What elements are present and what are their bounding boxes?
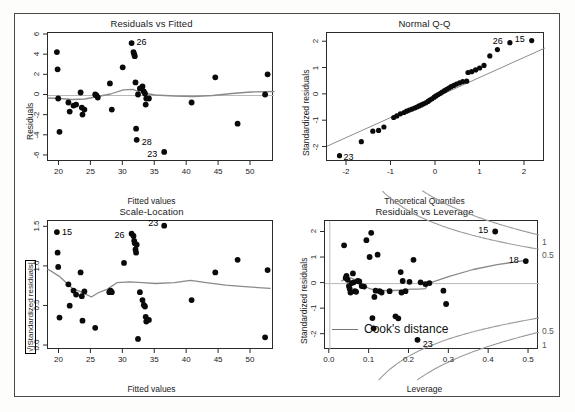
axes-scale-location — [15, 206, 288, 398]
x-tick-label: 40 — [182, 167, 191, 176]
cooks-contour-label: 1 — [542, 340, 547, 350]
y-tick-label: 2 — [309, 229, 318, 233]
x-tick-label: 50 — [246, 167, 255, 176]
panel-scale-location: Scale-Location √|Standardized residuals|… — [15, 206, 288, 398]
outlier-label-15: 15 — [478, 225, 488, 235]
outlier-label-23: 23 — [148, 218, 158, 228]
y-tick-label: 2 — [32, 72, 41, 76]
y-tick-label: -1 — [311, 117, 320, 124]
y-tick-label: 1.0 — [32, 260, 41, 271]
y-tick-label: 1 — [311, 65, 320, 69]
figure-outer-frame: Residuals vs Fitted Residuals Fitted val… — [14, 13, 560, 397]
x-tick-label: 30 — [118, 167, 127, 176]
x-tick-label: 0.4 — [483, 355, 494, 364]
y-tick-label: 4 — [32, 52, 41, 56]
outlier-label-28: 28 — [142, 137, 152, 147]
y-tick-label: -2 — [309, 330, 318, 337]
x-tick-label: 1 — [477, 167, 481, 176]
y-tick-label: 6 — [32, 32, 41, 36]
outlier-label-26: 26 — [137, 37, 147, 47]
y-tick-label: -4 — [32, 131, 41, 138]
y-tick-label: 0 — [311, 92, 320, 96]
y-tick-label: 0 — [32, 92, 41, 96]
outlier-label-26: 26 — [115, 230, 125, 240]
outlier-label-15: 15 — [515, 34, 525, 44]
x-tick-label: 35 — [150, 355, 159, 364]
cooks-contour-label: 0.5 — [542, 250, 554, 260]
x-tick-label: 0.0 — [323, 355, 334, 364]
outlier-label-18: 18 — [509, 255, 519, 265]
x-tick-label: 45 — [214, 167, 223, 176]
cooks-distance-legend-label: Cook's distance — [364, 322, 448, 336]
x-tick-label: 30 — [118, 355, 127, 364]
cooks-contour-label: 0.5 — [542, 326, 554, 336]
x-tick-label: 20 — [54, 167, 63, 176]
x-tick-label: 25 — [86, 167, 95, 176]
x-tick-label: -2 — [342, 167, 349, 176]
outlier-label-23: 23 — [147, 149, 157, 159]
axes-residuals-vs-leverage — [288, 206, 561, 398]
y-tick-label: -2 — [32, 111, 41, 118]
x-tick-label: 35 — [150, 167, 159, 176]
cooks-distance-legend-line — [332, 329, 358, 330]
x-tick-label: 0.3 — [443, 355, 454, 364]
x-tick-label: 0 — [433, 167, 437, 176]
outlier-label-23: 23 — [343, 152, 353, 162]
y-tick-label: 2 — [311, 39, 320, 43]
panel-residuals-vs-leverage: Residuals vs Leverage Standardized resid… — [288, 206, 561, 398]
outlier-label-26: 26 — [493, 36, 503, 46]
axes-normal-qq — [288, 18, 561, 210]
y-tick-label: 0.0 — [32, 339, 41, 350]
y-tick-label: 0.5 — [32, 300, 41, 311]
panel-normal-qq: Normal Q-Q Standardized residuals Theore… — [288, 18, 561, 210]
panel-residuals-vs-fitted: Residuals vs Fitted Residuals Fitted val… — [15, 18, 288, 210]
y-tick-label: -2 — [311, 143, 320, 150]
x-tick-label: -1 — [387, 167, 394, 176]
y-tick-label: -1 — [309, 305, 318, 312]
x-tick-label: 2 — [522, 167, 526, 176]
y-tick-label: 1 — [309, 255, 318, 259]
outlier-label-23: 23 — [423, 339, 433, 349]
x-tick-label: 0.1 — [363, 355, 374, 364]
axes-residuals-vs-fitted — [15, 18, 288, 210]
x-tick-label: 40 — [182, 355, 191, 364]
y-tick-label: 0 — [309, 280, 318, 284]
x-tick-label: 0.5 — [522, 355, 533, 364]
x-tick-label: 45 — [214, 355, 223, 364]
figure-page: Residuals vs Fitted Residuals Fitted val… — [0, 0, 575, 412]
x-tick-label: 50 — [246, 355, 255, 364]
outlier-label-15: 15 — [62, 227, 72, 237]
y-tick-label: 1.5 — [32, 221, 41, 232]
x-tick-label: 25 — [86, 355, 95, 364]
x-tick-label: 0.2 — [403, 355, 414, 364]
x-tick-label: 20 — [54, 355, 63, 364]
cooks-contour-label: 1 — [542, 237, 547, 247]
y-tick-label: -6 — [32, 151, 41, 158]
